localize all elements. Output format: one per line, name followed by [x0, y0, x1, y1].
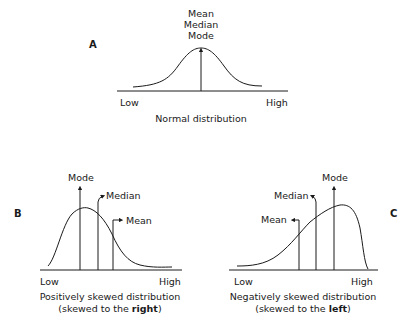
panel-b-mode-label: Mode — [68, 172, 94, 183]
panel-a-mean-label: Mean — [184, 8, 219, 19]
panel-c-caption-prefix: (skewed to the — [255, 303, 329, 314]
panel-c-caption-line1: Negatively skewed distribution — [230, 291, 377, 302]
panel-a-axis-high: High — [266, 97, 288, 108]
panel-b-letter: B — [14, 208, 22, 219]
panel-a-normal-curve — [133, 48, 262, 87]
panel-b-right-skew-curve — [48, 208, 172, 267]
panel-b-axis-low: Low — [40, 276, 59, 287]
panel-a-median-label: Median — [184, 19, 219, 30]
panel-c-mean-label: Mean — [261, 214, 287, 225]
panel-b-median-arrow — [98, 196, 103, 270]
panel-c-caption-suffix: ) — [347, 303, 351, 314]
panel-b-axis-high: High — [159, 276, 181, 287]
panel-c-mean-arrow — [293, 220, 299, 270]
panel-b-caption-suffix: ) — [158, 303, 162, 314]
panel-c-caption-emphasis: left — [329, 303, 347, 314]
panel-c-axis-high: High — [351, 276, 373, 287]
panel-b-median-label: Median — [106, 190, 141, 201]
panel-b-caption-line1: Positively skewed distribution — [40, 291, 181, 302]
panel-c-letter: C — [390, 208, 397, 219]
panel-b-mean-label: Mean — [126, 215, 152, 226]
panel-c-median-label: Median — [274, 190, 309, 201]
panel-c-axis-low: Low — [234, 276, 253, 287]
panel-b-caption-prefix: (skewed to the — [58, 303, 132, 314]
panel-c-mode-label: Mode — [322, 172, 348, 183]
distribution-diagram — [0, 0, 410, 329]
panel-c-median-arrow — [312, 196, 316, 270]
panel-a-letter: A — [89, 39, 97, 50]
panel-b-caption-line2: (skewed to the right) — [58, 303, 161, 314]
panel-a-central-tendency-labels: Mean Median Mode — [184, 8, 219, 41]
panel-a-caption: Normal distribution — [155, 113, 247, 124]
panel-a-graph — [117, 48, 288, 91]
panel-c-caption-line2: (skewed to the left) — [255, 303, 351, 314]
panel-c-left-skew-curve — [237, 205, 368, 269]
panel-a-axis-low: Low — [120, 97, 139, 108]
panel-b-caption-emphasis: right — [132, 303, 158, 314]
panel-a-mode-label: Mode — [184, 30, 219, 41]
